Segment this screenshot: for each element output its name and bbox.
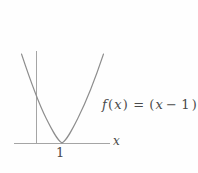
- minus-sign: −: [163, 97, 180, 112]
- expression-variable: x: [156, 97, 164, 112]
- parabola-curve: [22, 54, 104, 143]
- expression-open-paren: (: [148, 97, 155, 112]
- function-equation-label: f(x)=(x−1)2: [102, 96, 198, 112]
- x-tick-label-1: 1: [56, 145, 64, 160]
- x-axis-label: x: [113, 134, 120, 148]
- function-argument: x: [114, 97, 122, 112]
- plot-area: [0, 0, 198, 173]
- equals-sign: =: [129, 97, 148, 112]
- expression-constant: 1: [180, 97, 190, 112]
- expression-close-paren: ): [191, 97, 198, 112]
- parabola-figure: x 1 f(x)=(x−1)2: [0, 0, 198, 173]
